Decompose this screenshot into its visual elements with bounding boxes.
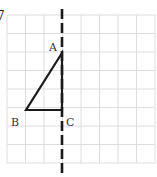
vertex-label-b: B bbox=[11, 116, 19, 129]
question-number-fragment: 7 bbox=[0, 9, 5, 23]
square-grid bbox=[7, 15, 155, 163]
vertex-label-a: A bbox=[48, 41, 58, 54]
geometry-diagram: 7 A B C bbox=[0, 0, 157, 177]
vertex-label-c: C bbox=[66, 116, 74, 129]
